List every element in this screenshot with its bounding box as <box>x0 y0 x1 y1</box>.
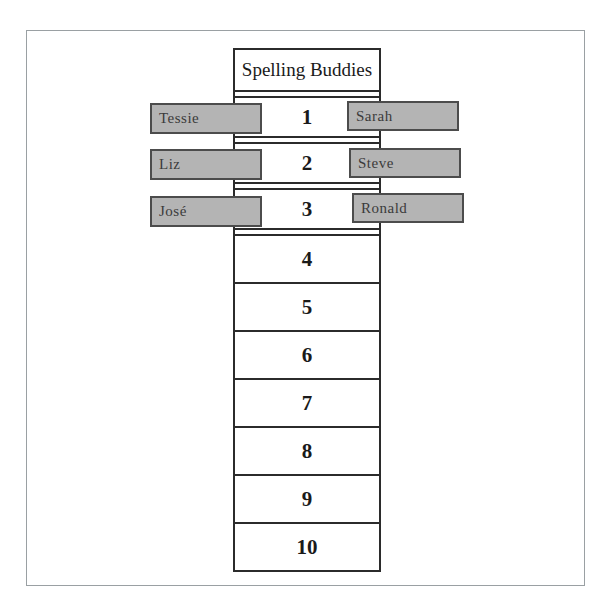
name-tag-steve: Steve <box>349 148 461 178</box>
number-cell-5: 5 <box>235 284 379 332</box>
name-tag-liz: Liz <box>150 149 262 180</box>
chart-title: Spelling Buddies <box>235 48 379 92</box>
name-tag-ronald: Ronald <box>352 193 464 223</box>
number-cell-8: 8 <box>235 428 379 476</box>
number-cell-stack: 4 5 6 7 8 9 10 <box>235 234 379 572</box>
number-cell-6: 6 <box>235 332 379 380</box>
name-tag-jose: José <box>150 196 262 227</box>
number-cell-9: 9 <box>235 476 379 524</box>
number-cell-7: 7 <box>235 380 379 428</box>
name-tag-tessie: Tessie <box>150 103 262 134</box>
number-cell-4: 4 <box>235 236 379 284</box>
name-tag-sarah: Sarah <box>347 101 459 131</box>
number-cell-10: 10 <box>235 524 379 572</box>
